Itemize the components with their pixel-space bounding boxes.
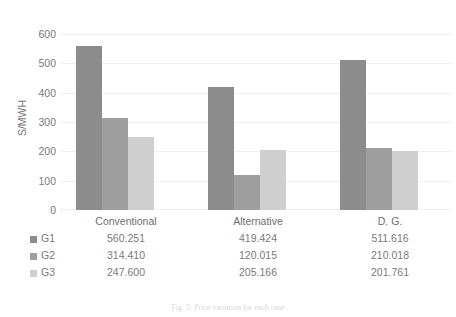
- bar-chart-figure: S/MWH 600 500 400 300 200 100 0: [0, 0, 456, 317]
- data-table: Conventional Alternative D. G. G1 560.25…: [0, 212, 456, 280]
- bar-g2-conventional: [102, 118, 128, 210]
- legend-swatch-g3: [30, 270, 37, 277]
- cell-g2-alternative: 120.015: [192, 246, 324, 263]
- y-tick-label: 300: [18, 117, 56, 127]
- table-header-row: Conventional Alternative D. G.: [0, 212, 456, 229]
- bar-group-conventional: [76, 34, 154, 210]
- category-label-dg: D. G.: [324, 212, 456, 229]
- category-label-alternative: Alternative: [192, 212, 324, 229]
- y-tick-label: 400: [18, 88, 56, 98]
- legend-item-g2: G2: [0, 246, 60, 263]
- cell-g3-alternative: 205.166: [192, 263, 324, 280]
- legend-item-g1: G1: [0, 229, 60, 246]
- bar-g3-alternative: [260, 150, 286, 210]
- legend-label-g3: G3: [41, 266, 55, 278]
- bar-g3-conventional: [128, 137, 154, 210]
- bar-g1-conventional: [76, 46, 102, 210]
- figure-caption: Fig. 5. Price variation for each case: [0, 303, 456, 312]
- table-row: G1 560.251 419.424 511.616: [0, 229, 456, 246]
- bar-g2-alternative: [234, 175, 260, 210]
- y-tick-label: 100: [18, 176, 56, 186]
- y-axis-ticks: 600 500 400 300 200 100 0: [18, 34, 56, 210]
- y-tick-label: 200: [18, 146, 56, 156]
- cell-g3-conventional: 247.600: [60, 263, 192, 280]
- legend-label-g2: G2: [41, 249, 55, 261]
- cell-g3-dg: 201.761: [324, 263, 456, 280]
- bar-g1-alternative: [208, 87, 234, 210]
- cell-g2-dg: 210.018: [324, 246, 456, 263]
- legend-item-g3: G3: [0, 263, 60, 280]
- cell-g1-conventional: 560.251: [60, 229, 192, 246]
- cell-g1-alternative: 419.424: [192, 229, 324, 246]
- table-row: G2 314.410 120.015 210.018: [0, 246, 456, 263]
- bar-g3-dg: [392, 151, 418, 210]
- y-tick-label: 500: [18, 58, 56, 68]
- y-tick-label: 600: [18, 29, 56, 39]
- plot-area: [60, 34, 452, 210]
- bar-g2-dg: [366, 148, 392, 210]
- bar-group-dg: [340, 34, 418, 210]
- legend-swatch-g2: [30, 253, 37, 260]
- table-corner-cell: [0, 212, 60, 229]
- bar-g1-dg: [340, 60, 366, 210]
- category-label-conventional: Conventional: [60, 212, 192, 229]
- legend-swatch-g1: [30, 236, 37, 243]
- legend-label-g1: G1: [41, 232, 55, 244]
- cell-g1-dg: 511.616: [324, 229, 456, 246]
- table-row: G3 247.600 205.166 201.761: [0, 263, 456, 280]
- cell-g2-conventional: 314.410: [60, 246, 192, 263]
- bar-group-alternative: [208, 34, 286, 210]
